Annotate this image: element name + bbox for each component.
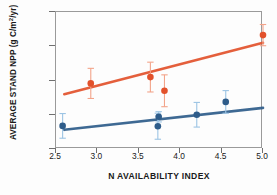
y-axis-label: AVERAGE STAND NPP (g C/m2/yr) xyxy=(8,0,19,147)
data-point-marker xyxy=(155,123,162,130)
x-tick-label: 4.0 xyxy=(165,151,193,161)
data-point-marker xyxy=(161,87,168,94)
y-axis-label-exponent: 2 xyxy=(8,18,14,21)
y-axis-label-prefix: AVERAGE STAND NPP (g C/m xyxy=(9,21,18,140)
data-point-marker xyxy=(193,111,200,118)
data-point-marker xyxy=(222,99,229,106)
chart-figure: AVERAGE STAND NPP (g C/m2/yr) 8001000120… xyxy=(0,0,277,195)
trend-line xyxy=(64,43,263,94)
data-point-marker xyxy=(147,74,154,81)
x-axis-label: N AVAILABILITY INDEX xyxy=(55,171,263,181)
trend-line xyxy=(64,108,263,130)
plot-area xyxy=(55,11,262,148)
x-tick-label: 5.0 xyxy=(248,151,276,161)
x-tick-label: 3.5 xyxy=(124,151,152,161)
y-axis-label-suffix: /yr) xyxy=(9,5,18,18)
data-point-marker xyxy=(260,32,267,39)
x-tick-label: 2.5 xyxy=(41,151,69,161)
data-point-marker xyxy=(87,80,94,87)
x-tick-label: 4.5 xyxy=(207,151,235,161)
data-point-marker xyxy=(59,123,66,130)
data-point-marker xyxy=(155,114,162,121)
x-tick-label: 3.0 xyxy=(82,151,110,161)
data-canvas xyxy=(56,12,263,149)
